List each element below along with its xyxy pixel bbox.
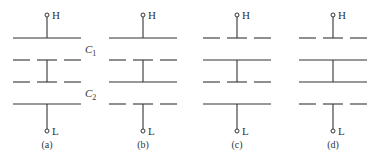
terminal-h-label: H — [242, 9, 250, 21]
capacitor-label-c2: C2 — [85, 87, 96, 102]
terminal-h-icon — [331, 13, 335, 17]
terminal-l-icon — [235, 129, 239, 133]
terminal-l-icon — [331, 129, 335, 133]
terminal-h-icon — [45, 13, 49, 17]
terminal-l-icon — [45, 129, 49, 133]
terminal-l-label: L — [148, 125, 155, 137]
panel-caption: (d) — [327, 139, 339, 151]
panel-a: HL(a)C1C2 — [13, 9, 96, 151]
terminal-h-label: H — [148, 9, 156, 21]
panel-d: HL(d) — [299, 9, 367, 151]
capacitor-configurations-figure: HL(a)C1C2HL(b)HL(c)HL(d) — [0, 0, 382, 164]
terminal-l-label: L — [338, 125, 345, 137]
terminal-l-icon — [141, 129, 145, 133]
panel-caption: (b) — [137, 139, 149, 151]
terminal-h-icon — [235, 13, 239, 17]
capacitor-label-c1: C1 — [85, 43, 96, 58]
panel-b: HL(b) — [109, 9, 177, 151]
terminal-h-label: H — [338, 9, 346, 21]
panel-c: HL(c) — [203, 9, 271, 151]
terminal-l-label: L — [242, 125, 249, 137]
panel-caption: (a) — [41, 139, 52, 151]
terminal-l-label: L — [52, 125, 59, 137]
terminal-h-label: H — [52, 9, 60, 21]
panel-caption: (c) — [231, 139, 242, 151]
terminal-h-icon — [141, 13, 145, 17]
